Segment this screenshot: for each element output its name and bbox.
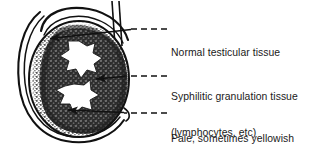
label-2-line-1: Syphilitic granulation tissue bbox=[171, 91, 298, 103]
label-3-line-1: Pale, sometimes yellowish bbox=[171, 133, 294, 145]
testis-lower-notch bbox=[124, 108, 129, 121]
figure-testis-gumma-diagram: Normal testicular tissue Syphilitic gran… bbox=[0, 0, 328, 150]
label-area-of-necrosis: Pale, sometimes yellowish area of necros… bbox=[171, 108, 294, 150]
label-1-line-1: Normal testicular tissue bbox=[171, 47, 280, 59]
